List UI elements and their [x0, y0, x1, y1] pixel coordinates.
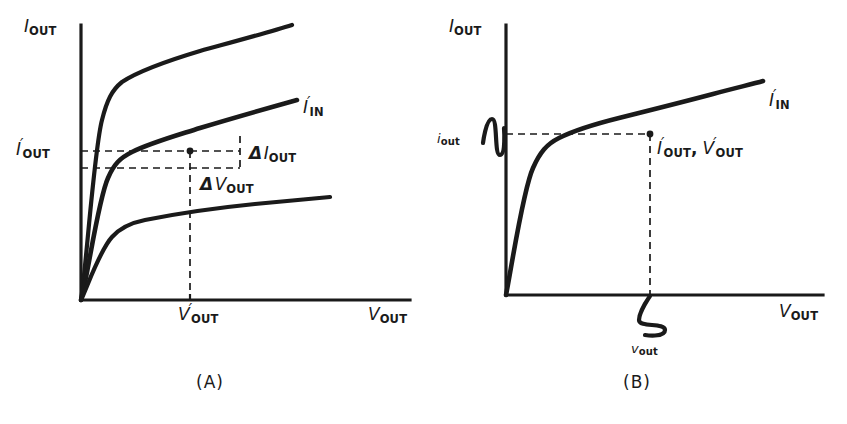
panel-b-plot [423, 0, 847, 424]
x-axis-label-b-symbol: V [779, 301, 791, 321]
operating-point-marker [187, 148, 194, 155]
i-out-sine-waveform [483, 119, 504, 155]
v-out-signal-sub: out [639, 346, 658, 357]
figure-root: IOUT I′OUT V′OUT VOUT I′IN ΔIOUT ΔVOUT (… [0, 0, 847, 424]
panel-a: IOUT I′OUT V′OUT VOUT I′IN ΔIOUT ΔVOUT (… [0, 0, 424, 424]
panel-b: IOUT iout vout I′IN I′OUT, V′OUT VOUT (B… [423, 0, 847, 424]
panel-a-axes [81, 25, 410, 300]
x-tick-label-symbol: V [178, 304, 190, 324]
y-axis-label-b: IOUT [449, 18, 482, 35]
x-axis-label-b: VOUT [779, 303, 818, 320]
x-axis-label-a: VOUT [368, 306, 407, 323]
x-axis-label-b-sub: OUT [791, 309, 819, 323]
panel-a-plot [0, 0, 424, 424]
v-out-sine-waveform [639, 296, 665, 336]
y-tick-label-sub: OUT [22, 147, 50, 161]
point-i-sub: OUT [663, 146, 691, 160]
panel-b-construction-lines [506, 134, 650, 295]
delta-i-out-sub: OUT [269, 151, 297, 165]
operating-point-marker [647, 131, 654, 138]
panel-b-axes [506, 25, 823, 295]
x-axis-label-a-sub: OUT [380, 312, 408, 326]
operating-point-label-b: I′OUT, V′OUT [657, 140, 743, 157]
y-axis-label-b-sub: OUT [454, 24, 482, 38]
i-out-signal-sub: out [441, 136, 460, 147]
curve-label-a-sub: IN [309, 105, 323, 119]
characteristic-curve-b [506, 81, 763, 295]
delta-v-out-label: ΔVOUT [200, 176, 254, 193]
panel-b-caption: (B) [623, 372, 651, 392]
v-out-signal-symbol: v [631, 341, 639, 356]
curve-label-i-in-prime-a: I′IN [303, 99, 324, 116]
point-v-sub: OUT [716, 146, 744, 160]
delta-i-out-delta: Δ [249, 143, 262, 163]
y-tick-label-i-out-prime: I′OUT [16, 141, 50, 158]
y-axis-label-a: IOUT [24, 18, 57, 35]
v-out-signal-label: vout [631, 340, 658, 356]
x-axis-label-a-symbol: V [368, 304, 380, 324]
curve-label-i-in-prime-b: I′IN [769, 92, 790, 109]
x-tick-label-sub: OUT [191, 312, 219, 326]
panel-a-caption: (A) [196, 372, 224, 392]
i-out-signal-label: iout [437, 130, 460, 146]
delta-v-out-delta: Δ [200, 174, 213, 194]
delta-v-out-sub: OUT [226, 182, 254, 196]
x-tick-label-v-out-prime: V′OUT [178, 306, 219, 323]
point-separator: , [691, 138, 697, 158]
curve-label-b-sub: IN [775, 98, 789, 112]
y-axis-label-a-sub: OUT [29, 24, 57, 38]
delta-i-out-label: ΔIOUT [249, 145, 296, 162]
middle-characteristic-curve [81, 100, 297, 300]
lower-characteristic-curve [81, 197, 330, 300]
delta-v-out-var: V [215, 174, 227, 194]
delta-i-out-var: I [264, 143, 269, 163]
